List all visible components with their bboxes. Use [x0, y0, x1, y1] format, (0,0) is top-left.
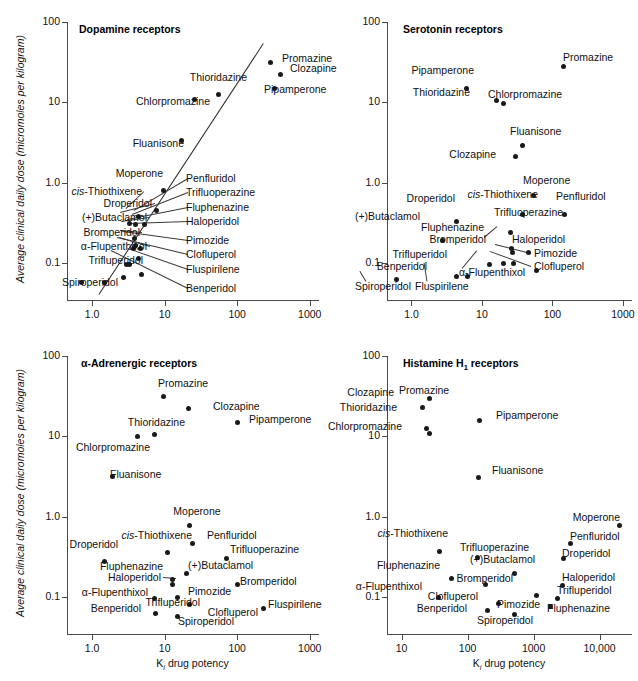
data-point	[617, 523, 622, 528]
y-tick	[382, 356, 387, 357]
panel-histamine-h1: 0.11.01010010100100010,000Histamine H1 r…	[0, 0, 638, 681]
data-point	[420, 405, 425, 410]
data-label: Thioridazine	[340, 402, 397, 413]
data-label: Spiroperidol	[477, 615, 533, 626]
x-tick	[534, 635, 535, 640]
data-label: Moperone	[573, 512, 620, 523]
data-label: Bromperidol	[456, 573, 513, 584]
x-tick	[600, 635, 601, 640]
data-point	[427, 396, 432, 401]
data-label: Pipamperone	[496, 410, 558, 421]
x-axis-line	[387, 634, 632, 635]
y-tick	[382, 597, 387, 598]
y-tick	[382, 517, 387, 518]
x-tick	[468, 635, 469, 640]
data-point	[555, 596, 560, 601]
panel-title: Histamine H1 receptors	[403, 357, 519, 372]
y-axis-line	[387, 356, 388, 635]
data-label: Penfluridol	[570, 531, 620, 542]
x-tick-label: 10,000	[560, 642, 638, 654]
data-label: Clofluperol	[428, 591, 478, 602]
figure-root: 0.11.0101001.0101001000Dopamine receptor…	[0, 0, 638, 681]
data-point	[449, 576, 454, 581]
data-label: Trifluoperazine	[460, 542, 529, 553]
data-label: Fluanisone	[492, 465, 543, 476]
data-label: Benperidol	[417, 603, 467, 614]
data-label: Clozapine	[347, 387, 394, 398]
data-label: Promazine	[399, 385, 449, 396]
data-point	[568, 541, 573, 546]
y-tick-label: 0.1	[347, 590, 380, 602]
data-label: (+)Butaclamol	[470, 554, 535, 565]
data-point	[437, 549, 442, 554]
data-label: Chlorpromazine	[328, 421, 402, 432]
data-label: Droperidol	[562, 548, 610, 559]
data-label: Pimozide	[497, 599, 540, 610]
x-axis-label: Ki drug potency	[387, 657, 631, 672]
data-point	[512, 571, 517, 576]
data-point	[477, 418, 482, 423]
data-label: α-Flupenthixol	[356, 581, 422, 592]
y-tick-label: 1.0	[347, 510, 380, 522]
y-axis-label: Average clinical daily dose (micromoles …	[14, 20, 26, 298]
y-axis-label: Average clinical daily dose (micromoles …	[14, 354, 26, 632]
x-tick	[402, 635, 403, 640]
data-label: Haloperidol	[562, 572, 615, 583]
x-axis-label: Ki drug potency	[67, 657, 318, 672]
data-point	[427, 431, 432, 436]
data-label: cis-Thiothixene	[377, 528, 448, 539]
data-point	[476, 475, 481, 480]
y-tick-label: 100	[347, 349, 380, 361]
data-label: Fluphenazine	[377, 560, 440, 571]
data-label: Fluphenazine	[547, 603, 610, 614]
data-label: Trifluperidol	[557, 585, 611, 596]
y-tick	[382, 436, 387, 437]
